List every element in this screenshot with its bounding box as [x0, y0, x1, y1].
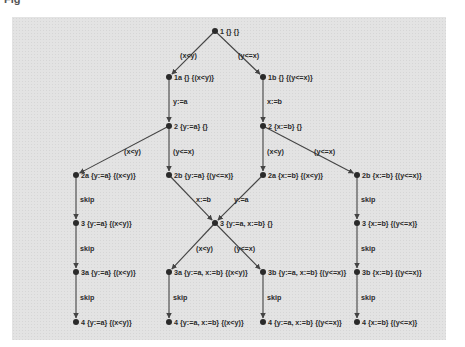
edge-label: y:=a: [234, 195, 250, 204]
edge-label: (x<y): [180, 51, 198, 60]
node-label-n1a: 1a {} {(x<y)}: [174, 73, 214, 82]
edge-label: (x<y): [267, 147, 285, 156]
node-dot-n3aC: [166, 269, 172, 275]
node-label-n2R: 2 {x:=b} {}: [268, 122, 302, 131]
node-dot-n4R: [354, 319, 360, 325]
node-dot-n4CR: [260, 319, 266, 325]
node-label-n2bL: 2b {y:=a} {(y<=x)}: [174, 171, 234, 180]
node-label-n4L: 4 {y:=a} {(x<y)}: [81, 318, 132, 327]
node-dot-n3L: [73, 220, 79, 226]
nodes-layer: 1 {} {}1a {} {(x<y)}1b {} {(y<=x)}2 {y:=…: [73, 27, 422, 327]
edge-label: skip: [80, 293, 95, 302]
edge-label: skip: [267, 293, 282, 302]
node-dot-n4L: [73, 319, 79, 325]
edge-label: (y<=x): [234, 244, 256, 253]
node-label-n2bR: 2b {x:=b} {(y<=x)}: [362, 171, 422, 180]
node-label-n3aL: 3a {y:=a} {(x<y)}: [81, 268, 136, 277]
node-dot-n3R: [354, 220, 360, 226]
node-dot-n2R: [260, 123, 266, 129]
node-label-n3C: 3 {y:=a, x:=b} {}: [220, 219, 273, 228]
edge-label: (x<y): [124, 147, 142, 156]
node-dot-n2aL: [73, 172, 79, 178]
node-label-n3aC: 3a {y:=a, x:=b} {(x<y)}: [174, 268, 248, 277]
node-label-n2L: 2 {y:=a} {}: [174, 122, 208, 131]
node-dot-n2L: [166, 123, 172, 129]
node-dot-n3C: [212, 220, 218, 226]
edge-label: x:=b: [196, 195, 212, 204]
node-dot-n1a: [166, 74, 172, 80]
node-dot-n2bR: [354, 172, 360, 178]
node-label-n2aL: 2a {y:=a} {(x<y)}: [81, 171, 136, 180]
node-label-n3bC: 3b {y:=a, x:=b} {(y<=x)}: [268, 268, 347, 277]
edge-label: y:=a: [173, 97, 189, 106]
edge-label: (y<=x): [173, 147, 195, 156]
node-label-n1: 1 {} {}: [220, 27, 239, 36]
node-dot-n1: [212, 28, 218, 34]
edge-label: skip: [361, 195, 376, 204]
node-dot-n3bC: [260, 269, 266, 275]
edge-label: skip: [361, 244, 376, 253]
node-dot-n2bL: [166, 172, 172, 178]
node-dot-n4CL: [166, 319, 172, 325]
node-dot-n3bR: [354, 269, 360, 275]
node-label-n3R: 3 {x:=b} {(y<=x)}: [362, 219, 418, 228]
node-label-n4CR: 4 {y:=a, x:=b} {(y<=x)}: [268, 318, 342, 327]
edge-label: skip: [173, 293, 188, 302]
edge-label: (x<y): [196, 244, 214, 253]
node-label-n2aR: 2a {x:=b} {(x<y)}: [268, 171, 323, 180]
node-label-n4R: 4 {x:=b} {(y<=x)}: [362, 318, 418, 327]
edge-label: skip: [80, 195, 95, 204]
edge-label: (y<=x): [314, 147, 336, 156]
node-label-n3L: 3 {y:=a} {(x<y)}: [81, 219, 132, 228]
execution-tree-diagram: (x<y)(y<=x)y:=ax:=b(x<y)(y<=x)(x<y)(y<=x…: [0, 0, 465, 347]
node-label-n3bR: 3b {x:=b} {(y<=x)}: [362, 268, 422, 277]
node-label-n1b: 1b {} {(y<=x)}: [268, 73, 313, 82]
node-dot-n3aL: [73, 269, 79, 275]
node-dot-n1b: [260, 74, 266, 80]
edge-label: (y<=x): [238, 51, 260, 60]
node-dot-n2aR: [260, 172, 266, 178]
edge-label: skip: [80, 244, 95, 253]
edge-label: x:=b: [267, 97, 283, 106]
node-label-n4CL: 4 {y:=a, x:=b} {(x<y)}: [174, 318, 244, 327]
edge-label: skip: [361, 293, 376, 302]
